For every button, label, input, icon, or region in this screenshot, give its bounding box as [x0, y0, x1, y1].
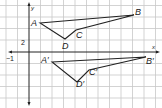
label-a-prime: A′	[40, 55, 49, 65]
label-c: C	[76, 30, 83, 40]
label-a: A	[30, 18, 37, 28]
x-axis-left-arrow-icon	[8, 51, 12, 54]
x-tick-label: −1	[6, 55, 14, 62]
label-d: D	[62, 41, 69, 51]
label-c-prime: C′	[89, 67, 97, 77]
label-b-prime: B′	[146, 56, 154, 66]
y-tick-label: 2	[21, 39, 25, 46]
coordinate-plane: y x 2 −1 A B C D A′ B′ C′ D′	[0, 0, 162, 108]
label-b: B	[135, 7, 141, 17]
y-axis-down-arrow-icon	[28, 102, 31, 106]
label-d-prime: D′	[76, 79, 84, 89]
x-axis-right-arrow-icon	[156, 51, 160, 54]
figure-abcd	[40, 15, 134, 39]
figure-abcd-prime	[52, 57, 146, 82]
